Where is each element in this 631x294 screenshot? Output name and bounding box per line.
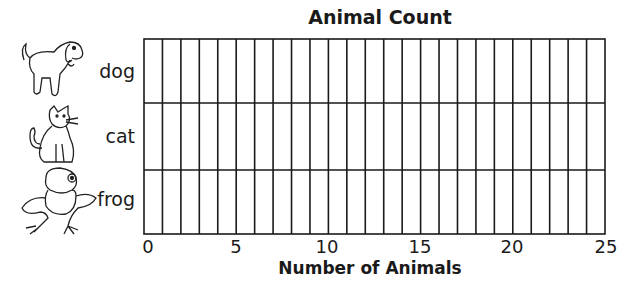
- x-axis-label: Number of Animals: [240, 258, 500, 278]
- x-tick-15: 15: [409, 236, 432, 257]
- x-tick-0: 0: [142, 236, 153, 257]
- x-tick-20: 20: [501, 236, 524, 257]
- x-tick-5: 5: [230, 236, 241, 257]
- x-tick-10: 10: [316, 236, 339, 257]
- x-tick-25: 25: [595, 236, 618, 257]
